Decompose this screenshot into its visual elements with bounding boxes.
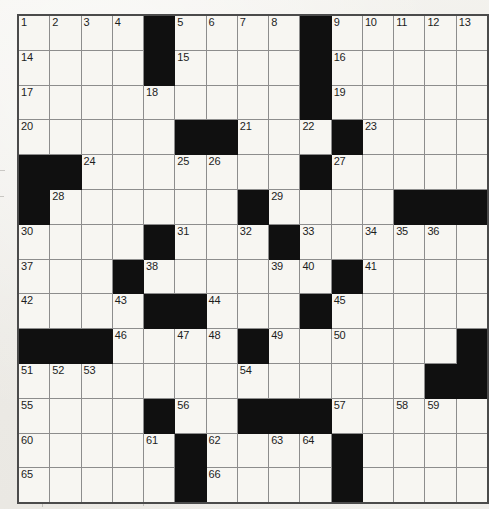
crossword-cell[interactable] (362, 155, 393, 190)
crossword-cell[interactable]: 38 (144, 259, 175, 294)
crossword-cell[interactable] (425, 50, 456, 85)
crossword-cell[interactable] (269, 120, 300, 155)
crossword-cell[interactable] (112, 398, 143, 433)
crossword-cell[interactable] (144, 120, 175, 155)
crossword-cell[interactable] (206, 85, 237, 120)
crossword-cell[interactable]: 66 (206, 468, 237, 503)
crossword-cell[interactable]: 39 (269, 259, 300, 294)
crossword-cell[interactable]: 3 (81, 15, 112, 50)
crossword-cell[interactable]: 13 (456, 15, 488, 50)
crossword-cell[interactable]: 57 (331, 398, 362, 433)
crossword-cell[interactable]: 40 (300, 259, 331, 294)
crossword-cell[interactable]: 43 (112, 294, 143, 329)
crossword-cell[interactable] (362, 329, 393, 364)
crossword-cell[interactable]: 9 (331, 15, 362, 50)
crossword-cell[interactable] (206, 50, 237, 85)
crossword-cell[interactable] (81, 259, 112, 294)
crossword-cell[interactable]: 10 (362, 15, 393, 50)
crossword-cell[interactable] (394, 120, 425, 155)
crossword-cell[interactable] (362, 433, 393, 468)
crossword-cell[interactable] (206, 363, 237, 398)
crossword-cell[interactable]: 12 (425, 15, 456, 50)
crossword-cell[interactable] (81, 468, 112, 503)
crossword-cell[interactable]: 21 (237, 120, 268, 155)
crossword-cell[interactable] (237, 433, 268, 468)
crossword-cell[interactable] (394, 259, 425, 294)
crossword-cell[interactable] (362, 363, 393, 398)
crossword-cell[interactable] (144, 329, 175, 364)
crossword-cell[interactable] (237, 155, 268, 190)
crossword-cell[interactable] (269, 294, 300, 329)
crossword-cell[interactable]: 64 (300, 433, 331, 468)
crossword-cell[interactable] (206, 224, 237, 259)
crossword-cell[interactable]: 34 (362, 224, 393, 259)
crossword-cell[interactable]: 24 (81, 155, 112, 190)
crossword-cell[interactable] (112, 50, 143, 85)
crossword-cell[interactable] (456, 120, 488, 155)
crossword-cell[interactable]: 58 (394, 398, 425, 433)
crossword-cell[interactable] (456, 433, 488, 468)
crossword-cell[interactable]: 37 (18, 259, 50, 294)
crossword-cell[interactable]: 18 (144, 85, 175, 120)
crossword-cell[interactable]: 59 (425, 398, 456, 433)
crossword-cell[interactable]: 45 (331, 294, 362, 329)
crossword-cell[interactable] (112, 85, 143, 120)
crossword-cell[interactable]: 36 (425, 224, 456, 259)
crossword-cell[interactable]: 6 (206, 15, 237, 50)
crossword-cell[interactable] (81, 50, 112, 85)
crossword-cell[interactable] (81, 398, 112, 433)
crossword-cell[interactable] (206, 398, 237, 433)
crossword-cell[interactable] (425, 120, 456, 155)
crossword-cell[interactable] (112, 189, 143, 224)
crossword-cell[interactable] (394, 50, 425, 85)
crossword-cell[interactable] (112, 155, 143, 190)
crossword-cell[interactable]: 62 (206, 433, 237, 468)
crossword-cell[interactable]: 48 (206, 329, 237, 364)
crossword-cell[interactable] (144, 189, 175, 224)
crossword-cell[interactable]: 25 (175, 155, 206, 190)
crossword-cell[interactable]: 46 (112, 329, 143, 364)
crossword-cell[interactable] (394, 363, 425, 398)
crossword-cell[interactable]: 8 (269, 15, 300, 50)
crossword-cell[interactable] (112, 363, 143, 398)
crossword-cell[interactable]: 51 (18, 363, 50, 398)
crossword-cell[interactable] (425, 433, 456, 468)
crossword-cell[interactable] (456, 259, 488, 294)
crossword-cell[interactable]: 14 (18, 50, 50, 85)
crossword-cell[interactable] (81, 85, 112, 120)
crossword-cell[interactable] (362, 398, 393, 433)
crossword-cell[interactable] (112, 120, 143, 155)
crossword-cell[interactable] (175, 259, 206, 294)
crossword-cell[interactable]: 65 (18, 468, 50, 503)
crossword-cell[interactable] (300, 468, 331, 503)
crossword-cell[interactable] (425, 294, 456, 329)
crossword-cell[interactable] (237, 259, 268, 294)
crossword-cell[interactable] (144, 468, 175, 503)
crossword-cell[interactable]: 35 (394, 224, 425, 259)
crossword-cell[interactable]: 23 (362, 120, 393, 155)
crossword-cell[interactable] (456, 155, 488, 190)
crossword-cell[interactable] (331, 189, 362, 224)
crossword-cell[interactable]: 20 (18, 120, 50, 155)
crossword-cell[interactable]: 11 (394, 15, 425, 50)
crossword-cell[interactable] (50, 433, 81, 468)
crossword-cell[interactable] (81, 120, 112, 155)
crossword-cell[interactable] (331, 224, 362, 259)
crossword-cell[interactable] (175, 85, 206, 120)
crossword-cell[interactable] (456, 85, 488, 120)
crossword-cell[interactable] (394, 155, 425, 190)
crossword-cell[interactable] (362, 189, 393, 224)
crossword-cell[interactable] (456, 50, 488, 85)
crossword-cell[interactable] (394, 329, 425, 364)
crossword-cell[interactable] (300, 363, 331, 398)
crossword-cell[interactable] (81, 294, 112, 329)
crossword-cell[interactable] (237, 294, 268, 329)
crossword-cell[interactable] (394, 433, 425, 468)
crossword-cell[interactable] (206, 259, 237, 294)
crossword-cell[interactable] (206, 189, 237, 224)
crossword-cell[interactable] (425, 468, 456, 503)
crossword-cell[interactable] (394, 468, 425, 503)
crossword-cell[interactable] (362, 468, 393, 503)
crossword-cell[interactable] (456, 398, 488, 433)
crossword-cell[interactable]: 63 (269, 433, 300, 468)
